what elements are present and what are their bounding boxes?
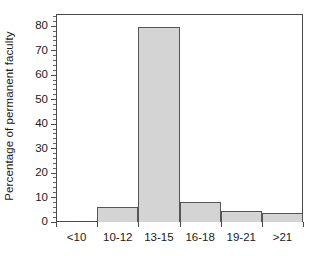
bar bbox=[97, 207, 138, 222]
bar bbox=[138, 27, 179, 222]
bar-chart: Percentage of permanent faculty 01020304… bbox=[0, 0, 318, 256]
y-axis-ticks: 01020304050607080 bbox=[0, 14, 56, 222]
y-tick-label: 10 bbox=[35, 191, 48, 203]
x-tick-label: >21 bbox=[262, 229, 303, 249]
x-axis-ticks bbox=[56, 222, 303, 228]
y-tick-label: 30 bbox=[35, 142, 48, 154]
x-tick-mark bbox=[303, 222, 304, 227]
x-tick-label: 13-15 bbox=[138, 229, 179, 249]
x-tick-mark bbox=[138, 222, 139, 227]
bar-slot bbox=[180, 14, 221, 222]
y-tick-label: 80 bbox=[35, 20, 48, 32]
bar-slot bbox=[56, 14, 97, 222]
x-tick-mark bbox=[97, 222, 98, 227]
bar-slot bbox=[138, 14, 179, 222]
x-tick-mark bbox=[56, 222, 57, 227]
x-tick-label: 10-12 bbox=[97, 229, 138, 249]
bar bbox=[262, 213, 303, 222]
bar bbox=[221, 211, 262, 222]
x-tick-mark bbox=[180, 222, 181, 227]
y-tick-label: 60 bbox=[35, 69, 48, 81]
x-tick-mark bbox=[262, 222, 263, 227]
bar bbox=[180, 202, 221, 222]
y-tick-label: 50 bbox=[35, 93, 48, 105]
x-tick-label: 19-21 bbox=[221, 229, 262, 249]
bar-series bbox=[56, 14, 303, 222]
y-tick-label: 0 bbox=[42, 216, 48, 228]
x-tick-mark bbox=[221, 222, 222, 227]
y-tick-label: 70 bbox=[35, 44, 48, 56]
x-tick-label: <10 bbox=[56, 229, 97, 249]
bar-slot bbox=[97, 14, 138, 222]
x-tick-label: 16-18 bbox=[180, 229, 221, 249]
plot-area bbox=[56, 14, 303, 222]
bar-slot bbox=[262, 14, 303, 222]
y-tick-label: 20 bbox=[35, 167, 48, 179]
y-tick-label: 40 bbox=[35, 118, 48, 130]
bar-slot bbox=[221, 14, 262, 222]
x-axis-labels: <1010-1213-1516-1819-21>21 bbox=[56, 229, 303, 249]
